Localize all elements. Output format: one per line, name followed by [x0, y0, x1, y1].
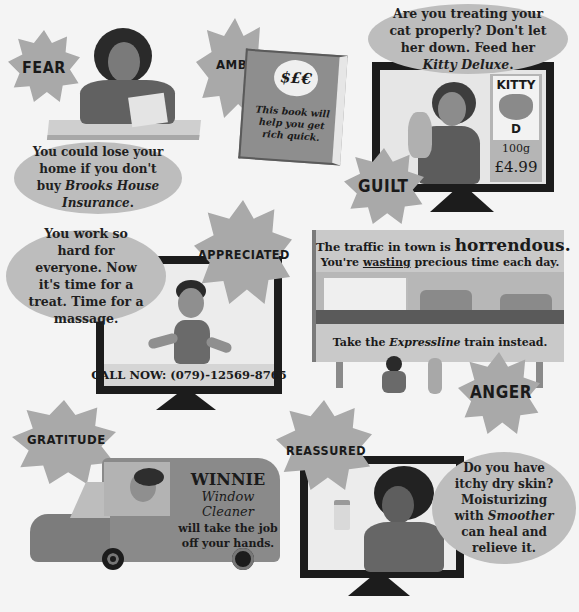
kitty-product-name-top: KITTY — [493, 78, 539, 92]
appreciated-label: APPRECIATED — [198, 247, 290, 262]
appreciated-monitor-stand — [156, 394, 216, 410]
van-text-block: WINNIE Window Cleaner will take the job … — [176, 470, 280, 551]
ambition-coin: $£€ — [273, 59, 319, 98]
anger-label: ANGER — [470, 382, 532, 402]
road — [316, 310, 564, 324]
van-cabin — [30, 514, 110, 562]
guilt-woman-face — [438, 92, 466, 126]
reassured-label: REASSURED — [286, 443, 366, 458]
fear-label: FEAR — [22, 58, 66, 77]
fear-paper — [128, 93, 168, 128]
reassured-woman-face — [382, 486, 414, 524]
appreciated-call-banner: CALL NOW: (079)-12569-8765 — [104, 364, 274, 386]
angry-boy-head — [386, 356, 402, 372]
billboard-post-left — [336, 358, 343, 388]
fear-speech-bubble: You could lose your home if you don't bu… — [14, 142, 182, 214]
van-front-wheel — [102, 548, 124, 570]
guilt-monitor-stand — [430, 192, 494, 212]
appreciated-phone-number: CALL NOW: (079)-12569-8765 — [91, 368, 287, 382]
reassured-speech-bubble: Do you have itchy dry skin? Moisturizing… — [432, 452, 576, 564]
kitty-product-price: £4.99 — [490, 158, 542, 176]
truck-trailer — [324, 278, 408, 310]
billboard-line-3: Take the Expressline train instead. — [316, 336, 564, 349]
fear-brand: Brooks House Insurance — [62, 179, 159, 210]
van-text: will take the job off your hands. — [176, 521, 280, 551]
winnie-van: WINNIE Window Cleaner will take the job … — [30, 458, 282, 566]
cat-face-icon — [499, 94, 533, 120]
fear-woman-face — [108, 42, 140, 82]
smoother-brand: Smoother — [488, 509, 554, 523]
guilt-brand: Kitty Deluxe — [422, 57, 509, 72]
ambition-book-text: This book will help you get rich quick. — [252, 103, 332, 144]
billboard-line-1: The traffic in town is horrendous. — [316, 235, 564, 255]
van-subtitle: Window Cleaner — [176, 489, 280, 519]
guilt-label: GUILT — [358, 176, 409, 196]
appreciated-speech-bubble: You work so hard for everyone. Now it's … — [6, 230, 166, 322]
billboard-emphasis: horrendous. — [455, 235, 571, 255]
appreciated-man-face — [178, 288, 204, 318]
reassured-monitor-stand — [348, 578, 410, 596]
anger-billboard: The traffic in town is horrendous. You'r… — [312, 230, 564, 362]
ambition-book: $£€ This book will help you get rich qui… — [238, 49, 347, 166]
girl-figure — [428, 358, 442, 394]
guilt-speech-bubble: Are you treating your cat properly? Don'… — [368, 4, 568, 74]
ambition-currency-symbols: $£€ — [280, 68, 312, 88]
van-title: WINNIE — [176, 470, 280, 489]
cat-illustration — [408, 112, 432, 158]
van-driver-hair — [134, 468, 164, 486]
billboard-traffic-scene — [316, 272, 564, 324]
smoother-jar — [334, 500, 350, 530]
appreciated-man-body — [174, 320, 210, 364]
expressline-brand: Expressline — [389, 336, 460, 349]
gratitude-label: GRATITUDE — [27, 432, 106, 447]
van-vehicle — [420, 290, 472, 312]
billboard-line-2: You're wasting precious time each day. — [316, 256, 564, 269]
kitty-product-weight: 100g — [490, 142, 542, 155]
kitty-product-box: KITTY D 100g £4.99 — [490, 74, 542, 182]
kitty-product-name-bottom: D — [493, 122, 539, 136]
kitty-product-label: KITTY D — [493, 76, 539, 140]
angry-boy-body — [382, 371, 406, 393]
van-rear-wheel — [232, 548, 254, 570]
